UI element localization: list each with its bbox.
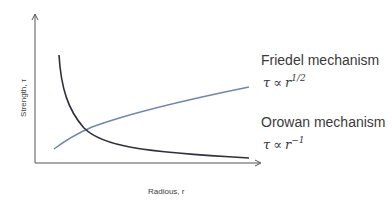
orowan-formula: τ∝r−1 [263, 135, 305, 152]
friedel-formula: τ∝r1/2 [263, 73, 306, 90]
orowan-label: Orowan mechanism [261, 114, 386, 130]
friedel-label: Friedel mechanism [261, 52, 379, 68]
x-axis-label: Radious, r [148, 187, 184, 196]
proportional-symbol: ∝ [273, 75, 282, 90]
exponent: 1/2 [291, 73, 305, 83]
y-axis-label: Strength, τ [19, 79, 28, 117]
tau-symbol: τ [263, 137, 270, 152]
tau-symbol: τ [263, 75, 270, 90]
plot-area [0, 0, 392, 205]
friedel-curve [54, 87, 249, 149]
orowan-curve [59, 55, 249, 158]
proportional-symbol: ∝ [273, 137, 282, 152]
exponent: −1 [291, 135, 304, 145]
